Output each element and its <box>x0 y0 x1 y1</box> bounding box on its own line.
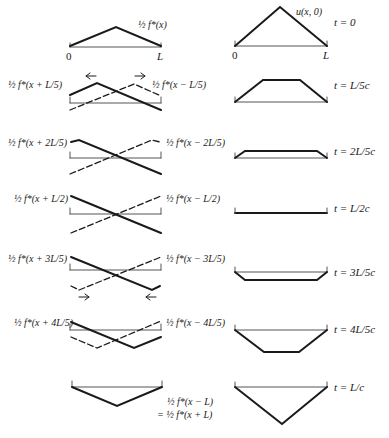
label-right-wave-3: ½ f*(x − L/2) <box>166 194 220 204</box>
arrow-left-icon <box>86 73 96 79</box>
label-right-wave-4: ½ f*(x − 3L/5) <box>166 254 225 264</box>
arrow-left-icon <box>146 294 156 300</box>
right-row-5 <box>235 325 327 352</box>
left-row-5 <box>70 321 161 348</box>
axis-start-label: 0 <box>66 50 72 62</box>
label-left-wave-1: ½ f*(x + L/5) <box>8 80 62 90</box>
wave-diagram <box>0 0 389 438</box>
label-u-x-0: u(x, 0) <box>296 7 322 17</box>
left-row-6 <box>72 381 162 406</box>
label-wave-L-line1: ½ f*(x − L) <box>167 397 213 407</box>
label-wave-L-line2: = ½ f*(x + L) <box>157 410 212 420</box>
right-row-3 <box>235 208 327 213</box>
right-axis-end-label: L <box>323 49 329 61</box>
left-row-3 <box>70 196 161 233</box>
right-row-1 <box>235 80 327 102</box>
arrow-right-icon <box>135 73 145 79</box>
time-label-4: t = 3L/5c <box>334 266 375 278</box>
right-row-6 <box>235 382 327 424</box>
right-axis-start-label: 0 <box>232 49 238 61</box>
arrow-right-icon <box>79 294 89 300</box>
time-label-6: t = L/c <box>334 381 364 393</box>
time-label-0: t = 0 <box>334 16 355 28</box>
label-half-f-x: ½ f*(x) <box>138 20 167 30</box>
time-label-5: t = 4L/5c <box>334 323 375 335</box>
right-row-4 <box>235 267 327 280</box>
label-left-wave-2: ½ f*(x + 2L/5) <box>8 138 67 148</box>
label-right-wave-5: ½ f*(x − 4L/5) <box>166 318 225 328</box>
left-row-0 <box>70 27 161 47</box>
label-left-wave-4: ½ f*(x + 3L/5) <box>8 254 67 264</box>
time-label-3: t = L/2c <box>334 202 370 214</box>
label-right-wave-2: ½ f*(x − 2L/5) <box>166 138 225 148</box>
axis-end-label: L <box>157 50 163 62</box>
label-left-wave-3: ½ f*(x + L/2) <box>14 194 68 204</box>
left-row-4 <box>70 257 161 290</box>
right-row-2 <box>235 151 327 158</box>
time-label-2: t = 2L/5c <box>334 145 375 157</box>
label-right-wave-1: ½ f*(x − L/5) <box>152 80 206 90</box>
label-left-wave-5: ½ f*(x + 4L/5) <box>14 318 73 328</box>
time-label-1: t = L/5c <box>334 79 370 91</box>
left-row-1 <box>70 83 161 110</box>
left-row-2 <box>70 140 161 174</box>
